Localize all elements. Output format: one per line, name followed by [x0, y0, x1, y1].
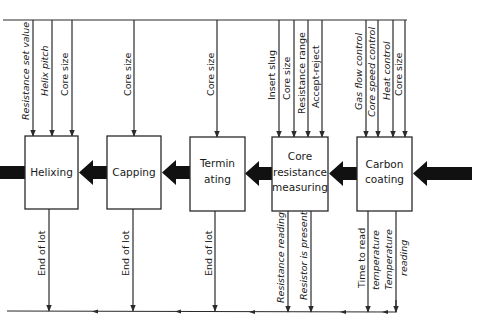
input-label: Gas flow control — [353, 33, 364, 110]
stage-core-resistance-measuring: Core resistance measuring — [272, 137, 328, 211]
input-label: Core size — [205, 52, 216, 96]
flow-arrow-core-to-terminating — [245, 161, 272, 186]
input-label: Insert slug — [266, 50, 277, 100]
input-label: Core size — [281, 56, 292, 100]
input-label: Heat control — [381, 41, 392, 100]
stage-terminating: Termin ating — [190, 137, 245, 211]
input-label: Core size — [122, 52, 133, 96]
stage-capping: Capping — [107, 136, 161, 209]
process-flow-diagram: Helixing Capping Termin ating Core resis… — [0, 0, 497, 327]
output-label: End of lot — [203, 230, 214, 276]
input-labels: Resistance set value Helix pitch Core si… — [20, 22, 404, 120]
flow-arrow-input — [413, 161, 472, 186]
input-label: Core speed control — [366, 27, 377, 117]
stage-carbon-coating: Carbon coating — [357, 137, 412, 211]
output-labels: End of lot End of lot End of lot Resista… — [36, 210, 409, 303]
stage-label-line1: Core — [288, 150, 312, 162]
output-label-line1: Temperature — [383, 229, 394, 290]
output-label-line2: reading — [398, 240, 409, 276]
stage-label-line1: Carbon — [366, 158, 404, 170]
stage-label-line2: resistance — [273, 166, 327, 178]
bottom-signal-bus — [7, 300, 396, 312]
input-label: Core size — [59, 52, 70, 96]
output-lines — [49, 209, 396, 312]
stage-label: Capping — [112, 166, 155, 178]
input-label: Core size — [393, 52, 404, 96]
flow-arrow-output — [0, 166, 25, 179]
input-lines — [33, 20, 405, 137]
output-label: Resistor is present — [298, 210, 309, 300]
output-label: End of lot — [36, 230, 47, 276]
input-label: Helix pitch — [39, 45, 50, 96]
input-label: Resistance set value — [20, 22, 31, 120]
flow-arrow-terminating-to-capping — [162, 160, 190, 185]
stage-label-line2: ating — [204, 173, 231, 185]
output-label: Resistance reading — [275, 212, 286, 303]
flow-arrow-carbon-to-core — [329, 161, 357, 186]
stage-helixing: Helixing — [25, 136, 78, 209]
input-label: Accept-reject — [310, 45, 321, 108]
input-label: Resistance range — [296, 32, 307, 114]
stage-label-line2: coating — [365, 173, 404, 185]
stage-label-line3: measuring — [272, 181, 328, 193]
output-label-line2: temperature — [370, 230, 381, 290]
flow-arrow-capping-to-helixing — [79, 160, 107, 185]
stage-label: Helixing — [30, 166, 73, 178]
output-label: End of lot — [120, 230, 131, 276]
output-label-line1: Time to read — [356, 228, 367, 289]
stage-label-line1: Termin — [199, 157, 235, 169]
